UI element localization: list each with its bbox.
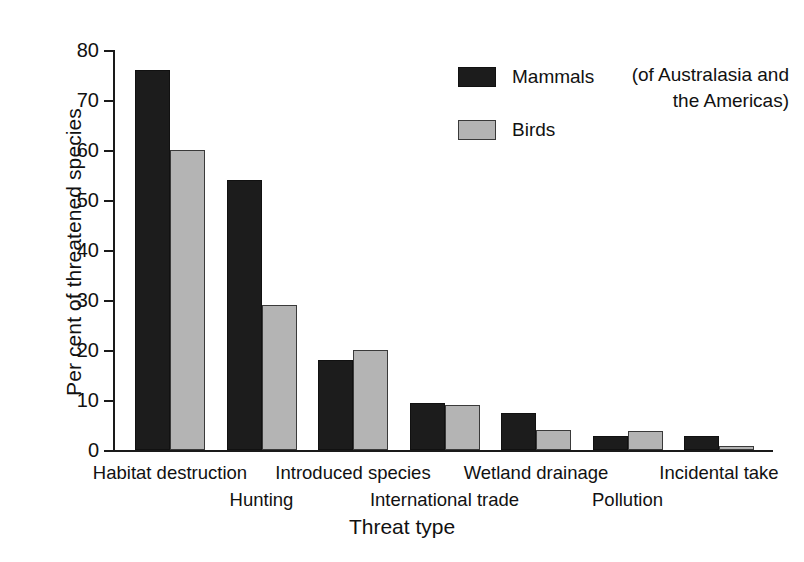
y-tick-mark bbox=[104, 400, 113, 402]
legend-label-mammals: Mammals bbox=[512, 66, 594, 88]
x-axis-line bbox=[113, 450, 773, 452]
x-tick-label-international-trade: International trade bbox=[370, 489, 519, 511]
legend-item-birds: Birds bbox=[458, 119, 555, 141]
legend-annotation: (of Australasia and the Americas) bbox=[614, 62, 789, 114]
y-axis-line bbox=[113, 50, 115, 451]
bar-mammals-introduced-species bbox=[318, 360, 353, 450]
x-tick-label-introduced-species: Introduced species bbox=[275, 462, 430, 484]
legend-swatch-birds bbox=[458, 120, 496, 140]
bar-birds-hunting bbox=[262, 305, 297, 450]
x-tick-label-pollution: Pollution bbox=[592, 489, 663, 511]
bar-birds-habitat-destruction bbox=[170, 150, 205, 450]
y-tick-mark bbox=[104, 350, 113, 352]
bar-birds-wetland-drainage bbox=[536, 430, 571, 450]
x-tick-label-wetland-drainage: Wetland drainage bbox=[464, 462, 609, 484]
y-tick-label: 70 bbox=[77, 89, 99, 112]
bar-mammals-habitat-destruction bbox=[135, 70, 170, 450]
y-tick-mark bbox=[104, 250, 113, 252]
legend-swatch-mammals bbox=[458, 67, 496, 87]
bar-mammals-hunting bbox=[227, 180, 262, 450]
y-tick-label: 80 bbox=[77, 39, 99, 62]
bar-mammals-incidental-take bbox=[684, 436, 719, 450]
y-tick-label: 40 bbox=[77, 239, 99, 262]
bar-birds-introduced-species bbox=[353, 350, 388, 450]
y-tick-label: 0 bbox=[88, 439, 99, 462]
bar-mammals-wetland-drainage bbox=[501, 413, 536, 451]
y-tick-label: 10 bbox=[77, 389, 99, 412]
x-tick-label-hunting: Hunting bbox=[230, 489, 294, 511]
legend-label-birds: Birds bbox=[512, 119, 555, 141]
y-tick-label: 50 bbox=[77, 189, 99, 212]
y-tick-label: 20 bbox=[77, 339, 99, 362]
legend-item-mammals: Mammals bbox=[458, 66, 594, 88]
bar-chart-figure: Per cent of threatened species 010203040… bbox=[0, 0, 804, 562]
bar-birds-incidental-take bbox=[719, 446, 754, 450]
bar-mammals-international-trade bbox=[410, 403, 445, 451]
bar-birds-pollution bbox=[628, 431, 663, 450]
legend-annotation-line-2: the Americas) bbox=[614, 88, 789, 114]
y-tick-label: 60 bbox=[77, 139, 99, 162]
y-tick-mark bbox=[104, 150, 113, 152]
x-tick-label-habitat-destruction: Habitat destruction bbox=[93, 462, 247, 484]
bar-birds-international-trade bbox=[445, 405, 480, 450]
y-tick-mark bbox=[104, 200, 113, 202]
bar-mammals-pollution bbox=[593, 436, 628, 450]
y-tick-mark bbox=[104, 50, 113, 52]
y-tick-label: 30 bbox=[77, 289, 99, 312]
y-tick-mark bbox=[104, 450, 113, 452]
y-tick-mark bbox=[104, 300, 113, 302]
legend-annotation-line-1: (of Australasia and bbox=[614, 62, 789, 88]
x-tick-label-incidental-take: Incidental take bbox=[659, 462, 778, 484]
x-axis-title: Threat type bbox=[0, 515, 804, 539]
y-tick-mark bbox=[104, 100, 113, 102]
